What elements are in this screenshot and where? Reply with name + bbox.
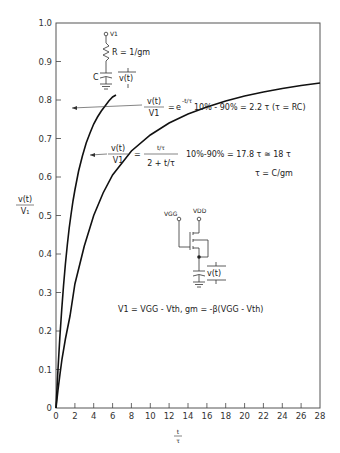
- x-tick-label: 18: [220, 411, 231, 421]
- y-tick-label: 0.6: [38, 172, 52, 182]
- mos-output-label: v(t): [207, 269, 221, 278]
- svg-text:e: e: [176, 103, 181, 112]
- y-tick-label: 0.7: [38, 134, 52, 144]
- svg-text:v(t): v(t): [111, 144, 125, 153]
- svg-text:t/τ: t/τ: [157, 144, 165, 151]
- y-tick-label: 0: [47, 403, 52, 413]
- x-tick-label: 16: [201, 411, 212, 421]
- y-tick-label: 0.5: [38, 211, 52, 221]
- mos-drain-label: VDD: [193, 207, 207, 214]
- y-tick-label: 0.3: [38, 288, 52, 298]
- y-tick-label: 0.4: [38, 249, 52, 259]
- x-axis-ticks: [75, 403, 301, 408]
- x-tick-label: 28: [315, 411, 326, 421]
- svg-text:=: =: [168, 103, 175, 112]
- y-tick-label: 0.9: [38, 57, 52, 67]
- rc-resistor-label: R = 1/gm: [112, 48, 150, 57]
- definitions-text: V1 = VGG - Vth, gm = -β(VGG - Vth): [118, 305, 263, 314]
- chart: 0 0.1 0.2 0.3 0.4 0.5 0.6 0.7 0.8 0.9 1.…: [0, 0, 340, 453]
- x-tick-label: 6: [110, 411, 115, 421]
- x-tick-label: 2: [72, 411, 77, 421]
- x-tick-label: 0: [53, 411, 58, 421]
- y-tick-label: 1.0: [38, 18, 52, 28]
- y-axis-label: v(t) V₁: [16, 195, 34, 216]
- mos-equation: v(t) V1 = t/τ 2 + t/τ 10%-90% = 17.8 τ ≅…: [90, 144, 293, 178]
- svg-text:=: =: [134, 150, 141, 159]
- mos-gate-label: VGG: [164, 210, 178, 217]
- rc-output-label: v(t): [119, 74, 133, 83]
- y-tick-label: 0.8: [38, 95, 52, 105]
- x-tick-label: 4: [91, 411, 96, 421]
- x-tick-label: 14: [183, 411, 194, 421]
- svg-text:V1: V1: [149, 109, 160, 118]
- rc-curve: [56, 95, 116, 408]
- svg-text:v(t): v(t): [18, 195, 32, 204]
- x-tick-label: 20: [239, 411, 250, 421]
- y-tick-label: 0.2: [38, 326, 52, 336]
- x-axis-label: t τ: [174, 428, 182, 444]
- svg-text:10%-90% = 17.8 τ ≅ 18 τ: 10%-90% = 17.8 τ ≅ 18 τ: [186, 150, 291, 159]
- svg-text:τ = C/gm: τ = C/gm: [255, 169, 293, 178]
- mos-curve: [56, 83, 320, 408]
- x-tick-label: 10: [145, 411, 156, 421]
- svg-text:V1: V1: [113, 156, 124, 165]
- x-tick-label: 12: [164, 411, 175, 421]
- rc-equation: v(t) V1 = e -t/τ 10% - 90% = 2.2 τ (τ = …: [72, 97, 306, 118]
- y-tick-label: 0.1: [38, 365, 52, 375]
- mos-node-dot: [197, 255, 201, 259]
- x-axis-labels: 0 2 4 6 8 10 12 14 16 18 20 22 24 26 28: [53, 411, 325, 421]
- svg-text:τ: τ: [176, 437, 180, 444]
- x-tick-label: 26: [296, 411, 307, 421]
- y-axis-labels: 0 0.1 0.2 0.3 0.4 0.5 0.6 0.7 0.8 0.9 1.…: [38, 18, 52, 413]
- svg-text:v(t): v(t): [147, 97, 161, 106]
- svg-text:2 + t/τ: 2 + t/τ: [147, 159, 175, 168]
- svg-text:V₁: V₁: [21, 207, 30, 216]
- svg-text:t: t: [177, 428, 180, 435]
- svg-text:10% - 90% = 2.2 τ (τ = RC): 10% - 90% = 2.2 τ (τ = RC): [194, 103, 306, 112]
- svg-text:-t/τ: -t/τ: [182, 97, 193, 104]
- x-tick-label: 8: [129, 411, 134, 421]
- x-tick-label: 22: [258, 411, 269, 421]
- rc-capacitor-label: C: [93, 73, 99, 82]
- rc-source-label: V1: [110, 30, 118, 37]
- x-tick-label: 24: [277, 411, 288, 421]
